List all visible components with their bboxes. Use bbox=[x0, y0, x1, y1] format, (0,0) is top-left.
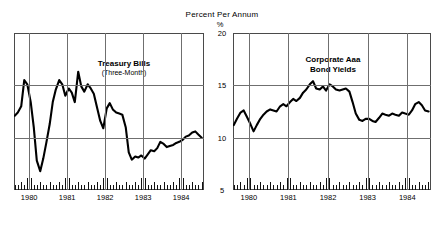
x-tick bbox=[56, 185, 57, 190]
x-axis-labels-left: 19801981198219831984 bbox=[14, 193, 204, 205]
x-tick bbox=[260, 182, 261, 190]
x-tick bbox=[346, 185, 347, 190]
x-tick bbox=[392, 185, 393, 190]
gridline-vertical bbox=[368, 33, 369, 190]
x-tick bbox=[333, 185, 334, 190]
x-tick bbox=[113, 185, 114, 190]
x-tick bbox=[422, 185, 423, 190]
x-tick bbox=[116, 182, 117, 190]
x-tick bbox=[237, 185, 238, 190]
x-tick bbox=[412, 185, 413, 190]
x-tick bbox=[69, 178, 70, 190]
x-tick bbox=[192, 182, 193, 190]
x-tick bbox=[428, 182, 429, 190]
x-tick bbox=[94, 185, 95, 190]
x-tick bbox=[369, 178, 370, 190]
x-axis-label: 1981 bbox=[280, 193, 297, 202]
x-tick bbox=[386, 185, 387, 190]
x-tick bbox=[362, 185, 363, 190]
x-axis-label: 1983 bbox=[135, 193, 152, 202]
x-tick bbox=[402, 185, 403, 190]
x-tick bbox=[21, 182, 22, 190]
x-axis-label: 1981 bbox=[59, 193, 76, 202]
x-tick bbox=[234, 185, 235, 190]
x-tick bbox=[250, 178, 251, 190]
x-tick bbox=[27, 178, 28, 190]
panel-treasury-bills: Treasury Bills (Three-Month) bbox=[14, 33, 204, 190]
x-tick bbox=[15, 185, 16, 190]
x-tick bbox=[43, 185, 44, 190]
x-tick bbox=[122, 185, 123, 190]
x-tick bbox=[353, 185, 354, 190]
x-tick bbox=[372, 185, 373, 190]
x-tick bbox=[277, 185, 278, 190]
series-label-corporate-aaa: Corporate Aaa Bond Yields bbox=[278, 55, 388, 75]
x-tick bbox=[336, 185, 337, 190]
x-axis-label: 1980 bbox=[21, 193, 38, 202]
x-tick bbox=[91, 185, 92, 190]
gridline-horizontal bbox=[233, 85, 431, 86]
x-tick bbox=[151, 185, 152, 190]
x-tick bbox=[88, 182, 89, 190]
x-tick bbox=[395, 185, 396, 190]
x-tick bbox=[148, 185, 149, 190]
gridline-vertical bbox=[288, 33, 289, 190]
x-tick bbox=[34, 185, 35, 190]
x-tick bbox=[186, 185, 187, 190]
x-tick bbox=[419, 182, 420, 190]
x-tick bbox=[267, 185, 268, 190]
x-tick bbox=[323, 185, 324, 190]
x-tick bbox=[244, 185, 245, 190]
x-tick bbox=[100, 185, 101, 190]
x-tick bbox=[18, 185, 19, 190]
gridline-horizontal bbox=[14, 85, 204, 86]
x-tick bbox=[343, 185, 344, 190]
figure-root: Percent Per Annum % 2015105 Treasury Bil… bbox=[0, 0, 444, 233]
gridline-vertical bbox=[105, 33, 106, 190]
series-label-main-right: Corporate Aaa bbox=[306, 55, 361, 64]
x-tick bbox=[290, 178, 291, 190]
x-tick bbox=[273, 185, 274, 190]
x-tick bbox=[329, 178, 330, 190]
x-tick bbox=[145, 178, 146, 190]
x-tick bbox=[103, 178, 104, 190]
series-label-sub-left: (Three-Month) bbox=[74, 69, 174, 78]
x-tick bbox=[415, 185, 416, 190]
x-tick bbox=[389, 182, 390, 190]
gridline-horizontal bbox=[14, 138, 204, 139]
x-tick bbox=[313, 185, 314, 190]
x-tick-marks-left bbox=[14, 177, 204, 190]
x-tick bbox=[303, 185, 304, 190]
x-tick bbox=[50, 182, 51, 190]
x-tick bbox=[339, 182, 340, 190]
x-tick bbox=[160, 185, 161, 190]
x-tick bbox=[296, 185, 297, 190]
x-tick bbox=[84, 185, 85, 190]
x-tick bbox=[81, 185, 82, 190]
x-tick bbox=[24, 185, 25, 190]
panel-corporate-aaa: Corporate Aaa Bond Yields bbox=[233, 33, 431, 190]
x-tick bbox=[263, 185, 264, 190]
x-tick bbox=[107, 178, 108, 190]
x-tick bbox=[135, 182, 136, 190]
x-tick bbox=[366, 178, 367, 190]
x-tick bbox=[280, 182, 281, 190]
x-tick bbox=[157, 185, 158, 190]
x-tick bbox=[405, 178, 406, 190]
x-tick bbox=[62, 185, 63, 190]
x-tick bbox=[254, 185, 255, 190]
x-tick bbox=[97, 182, 98, 190]
x-tick bbox=[316, 185, 317, 190]
gridline-vertical bbox=[249, 33, 250, 190]
x-tick bbox=[409, 178, 410, 190]
gridline-vertical bbox=[328, 33, 329, 190]
x-tick bbox=[376, 185, 377, 190]
gridline-vertical bbox=[29, 33, 30, 190]
x-tick bbox=[189, 185, 190, 190]
data-series-line bbox=[234, 81, 429, 131]
x-tick bbox=[198, 185, 199, 190]
x-tick bbox=[167, 185, 168, 190]
x-tick bbox=[270, 182, 271, 190]
x-tick bbox=[356, 185, 357, 190]
x-tick bbox=[359, 182, 360, 190]
